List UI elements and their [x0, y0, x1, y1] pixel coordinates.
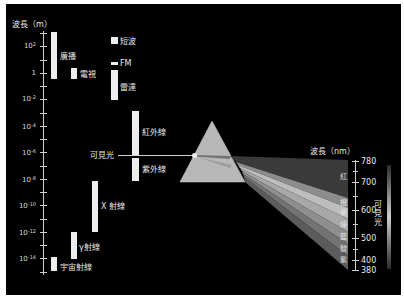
right-tick-label: 780 — [361, 157, 376, 166]
right-minor-tick — [353, 171, 358, 172]
spectrum-color-label: 藍 — [340, 233, 347, 242]
spectrum-color-label: 紅 — [340, 173, 347, 182]
right-tick-mark — [352, 260, 359, 261]
spectrum-color-label: 綠 — [340, 221, 347, 230]
entry-point — [192, 153, 197, 158]
right-minor-tick — [353, 196, 358, 197]
right-tick-mark — [352, 238, 359, 239]
right-minor-tick — [353, 224, 358, 225]
right-axis-title: 波長（nm） — [310, 147, 355, 156]
right-tick-mark — [352, 182, 359, 183]
right-minor-tick — [353, 249, 358, 250]
right-tick-mark — [352, 270, 359, 271]
dispersed-spectrum — [230, 156, 348, 270]
spectrum-color-label: 紫 — [340, 256, 347, 265]
right-tick-mark — [352, 161, 359, 162]
right-tick-label: 400 — [361, 256, 376, 265]
prism-icon — [180, 121, 245, 182]
spectrum-color-label: 靛 — [340, 245, 347, 254]
right-tick-label: 700 — [361, 178, 376, 187]
spectrum-color-label: 橙 — [340, 199, 347, 208]
spectrum-color-label: 黄 — [340, 209, 347, 218]
visible-gradient-bar — [387, 165, 391, 269]
right-tick-label: 500 — [361, 234, 376, 243]
visible-side-label: 可見光 — [374, 200, 383, 227]
right-tick-mark — [352, 210, 359, 211]
right-tick-label: 380 — [361, 266, 376, 275]
